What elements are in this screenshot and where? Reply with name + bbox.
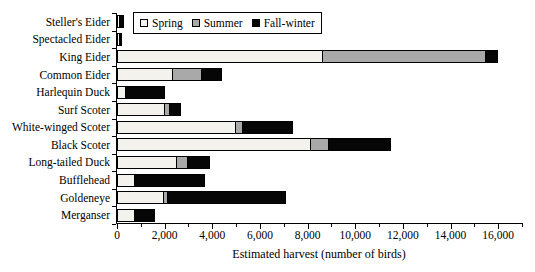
x-axis-minor-tick bbox=[379, 224, 380, 227]
bar-segment-summer bbox=[235, 122, 242, 133]
stacked-bar bbox=[117, 138, 391, 151]
category-label: Surf Scoter bbox=[0, 104, 110, 116]
y-axis-tick bbox=[112, 136, 116, 137]
bar-segment-spring bbox=[118, 104, 164, 115]
y-axis-tick bbox=[112, 83, 116, 84]
legend-label-summer: Summer bbox=[204, 17, 243, 29]
bar-segment-summer bbox=[322, 51, 486, 62]
bar-segment-fall-winter bbox=[119, 16, 123, 27]
x-axis-tick-label: 16,000 bbox=[468, 229, 528, 241]
bar-segment-fall-winter bbox=[169, 104, 181, 115]
legend-label-spring: Spring bbox=[152, 17, 183, 29]
stacked-bar bbox=[117, 50, 498, 63]
category-label: Merganser bbox=[0, 209, 110, 221]
category-label: Harlequin Duck bbox=[0, 86, 110, 98]
y-axis-line bbox=[116, 13, 117, 224]
stacked-bar bbox=[117, 191, 286, 204]
bar-segment-fall-winter bbox=[167, 192, 285, 203]
category-label: Long-tailed Duck bbox=[0, 156, 110, 168]
bar-segment-spring bbox=[118, 192, 163, 203]
bar-segment-fall-winter bbox=[125, 87, 164, 98]
y-axis-tick bbox=[112, 224, 116, 225]
x-axis-minor-tick bbox=[522, 224, 523, 227]
bar-segment-fall-winter bbox=[134, 175, 204, 186]
stacked-bar bbox=[117, 209, 155, 222]
fall-winter-swatch-icon bbox=[252, 19, 260, 27]
category-label: Steller's Eider bbox=[0, 16, 110, 28]
category-label: Common Eider bbox=[0, 69, 110, 81]
bar-segment-fall-winter bbox=[242, 122, 293, 133]
stacked-bar bbox=[117, 86, 165, 99]
x-axis-minor-tick bbox=[284, 224, 285, 227]
legend-item-fall-winter: Fall-winter bbox=[252, 17, 315, 29]
x-axis-minor-tick bbox=[474, 224, 475, 227]
y-axis-tick bbox=[112, 119, 116, 120]
y-axis-tick bbox=[112, 48, 116, 49]
x-axis-minor-tick bbox=[188, 224, 189, 227]
y-axis-tick bbox=[112, 154, 116, 155]
legend-item-spring: Spring bbox=[140, 17, 183, 29]
bar-segment-fall-winter bbox=[485, 51, 497, 62]
plot-area bbox=[117, 13, 522, 224]
stacked-bar bbox=[117, 68, 222, 81]
bar-segment-summer bbox=[176, 157, 186, 168]
y-axis-tick bbox=[112, 31, 116, 32]
bar-segment-spring bbox=[118, 69, 172, 80]
x-axis-minor-tick bbox=[427, 224, 428, 227]
bar-segment-spring bbox=[118, 51, 322, 62]
bar-segment-spring bbox=[118, 122, 235, 133]
category-label: Goldeneye bbox=[0, 192, 110, 204]
y-axis-tick bbox=[112, 66, 116, 67]
bar-segment-spring bbox=[118, 139, 310, 150]
x-axis-line bbox=[116, 223, 523, 224]
bar-segment-fall-winter bbox=[201, 69, 221, 80]
y-axis-tick bbox=[112, 171, 116, 172]
category-axis-labels: Steller's EiderSpectacled EiderKing Eide… bbox=[0, 13, 110, 224]
y-axis-tick bbox=[112, 206, 116, 207]
x-axis-minor-tick bbox=[141, 224, 142, 227]
spring-swatch-icon bbox=[140, 19, 148, 27]
bar-segment-spring bbox=[118, 87, 125, 98]
stacked-bar bbox=[117, 33, 122, 46]
category-label: Bufflehead bbox=[0, 174, 110, 186]
category-label: King Eider bbox=[0, 51, 110, 63]
legend-item-summer: Summer bbox=[192, 17, 243, 29]
legend-label-fall-winter: Fall-winter bbox=[264, 17, 315, 29]
y-axis-tick bbox=[112, 189, 116, 190]
x-axis-title: Estimated harvest (number of birds) bbox=[116, 247, 522, 262]
category-label: White-winged Scoter bbox=[0, 121, 110, 133]
harvest-bar-chart-figure: Spring Summer Fall-winter Steller's Eide… bbox=[0, 0, 535, 272]
bar-segment-summer bbox=[310, 139, 329, 150]
category-label: Black Scoter bbox=[0, 139, 110, 151]
bar-segment-spring bbox=[118, 210, 134, 221]
bar-segment-fall-winter bbox=[187, 157, 209, 168]
x-axis-minor-tick bbox=[331, 224, 332, 227]
stacked-bar bbox=[117, 15, 124, 28]
bar-segment-fall-winter bbox=[328, 139, 389, 150]
bar-segment-spring bbox=[118, 175, 134, 186]
stacked-bar bbox=[117, 103, 181, 116]
category-label: Spectacled Eider bbox=[0, 33, 110, 45]
stacked-bar bbox=[117, 121, 293, 134]
bar-segment-fall-winter bbox=[120, 34, 121, 45]
stacked-bar bbox=[117, 174, 205, 187]
chart-legend: Spring Summer Fall-winter bbox=[133, 12, 322, 34]
bar-segment-spring bbox=[118, 157, 176, 168]
y-axis-tick bbox=[112, 13, 116, 14]
x-axis-minor-tick bbox=[236, 224, 237, 227]
bar-segment-fall-winter bbox=[134, 210, 154, 221]
bar-segment-summer bbox=[172, 69, 201, 80]
stacked-bar bbox=[117, 156, 210, 169]
summer-swatch-icon bbox=[192, 19, 200, 27]
y-axis-tick bbox=[112, 101, 116, 102]
